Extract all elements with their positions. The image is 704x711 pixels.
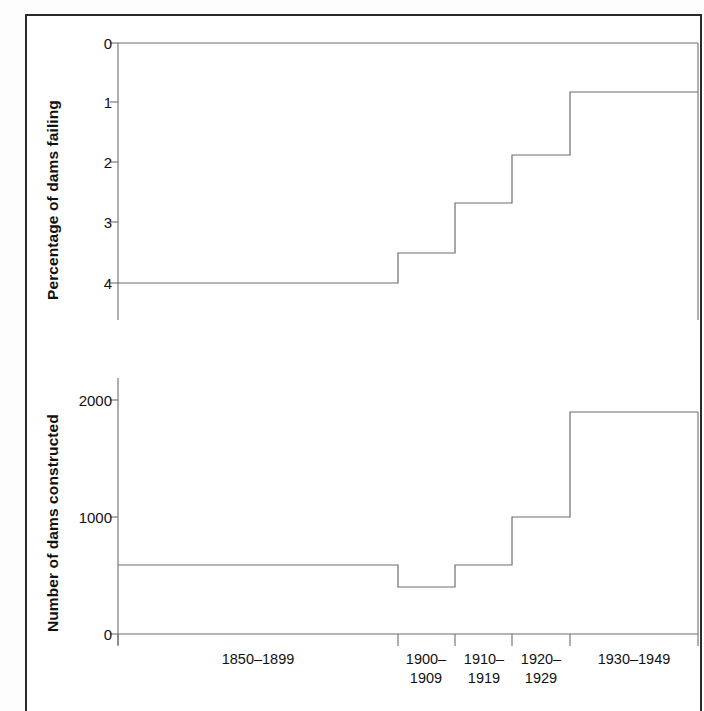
x-axis-label-1900-1909: 1900– 1909 bbox=[406, 650, 446, 688]
top-panel-step-series bbox=[118, 92, 698, 283]
x-axis-label-1930-1949: 1930–1949 bbox=[598, 650, 671, 669]
x-axis-label-1920-1929: 1920– 1929 bbox=[521, 650, 561, 688]
x-axis-label-1910-1919-line2: 1919 bbox=[464, 669, 504, 688]
bottom-panel-step-series bbox=[118, 412, 698, 587]
top-panel-axes bbox=[110, 43, 698, 320]
x-axis-label-1910-1919-line1: 1910– bbox=[464, 650, 504, 669]
x-axis-label-1920-1929-line1: 1920– bbox=[521, 650, 561, 669]
x-axis-label-1920-1929-line2: 1929 bbox=[521, 669, 561, 688]
x-axis-label-1900-1909-line2: 1909 bbox=[406, 669, 446, 688]
top-panel-axis-title: Percentage of dams failing bbox=[44, 100, 62, 300]
top-panel-ytick-label-3: 3 bbox=[104, 214, 112, 231]
x-axis-label-1910-1919: 1910– 1919 bbox=[464, 650, 504, 688]
top-panel-ytick-label-1: 1 bbox=[104, 94, 112, 111]
top-panel-ytick-label-0: 0 bbox=[104, 35, 112, 52]
x-axis-label-1930-1949-line1: 1930–1949 bbox=[598, 650, 671, 669]
bottom-panel-ytick-label-0: 0 bbox=[104, 626, 112, 643]
x-axis-label-1850-1899-line1: 1850–1899 bbox=[222, 650, 295, 669]
bottom-panel-ytick-label-2000: 2000 bbox=[79, 392, 112, 409]
x-axis-label-1900-1909-line1: 1900– bbox=[406, 650, 446, 669]
bottom-panel-axis-title: Number of dams constructed bbox=[44, 414, 62, 632]
figure-container: Percentage of dams failing Number of dam… bbox=[0, 0, 704, 711]
top-panel-ytick-label-2: 2 bbox=[104, 154, 112, 171]
top-panel-ytick-label-4: 4 bbox=[104, 275, 112, 292]
x-axis-label-1850-1899: 1850–1899 bbox=[222, 650, 295, 669]
bottom-panel-axes bbox=[110, 378, 698, 646]
bottom-panel-ytick-label-1000: 1000 bbox=[79, 509, 112, 526]
